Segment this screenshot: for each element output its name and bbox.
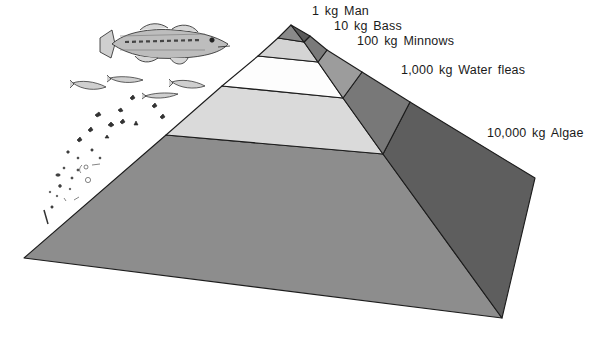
label-man: 1 kg Man [312, 4, 369, 18]
biomass-pyramid-diagram: 1 kg Man 10 kg Bass 100 kg Minnows 1,000… [0, 0, 598, 337]
label-algae: 10,000 kg Algae [487, 126, 584, 140]
bass-fish-illustration [100, 24, 230, 64]
label-bass: 10 kg Bass [334, 19, 402, 33]
pyramid-graphic [0, 0, 598, 337]
water-fleas-illustration [77, 95, 165, 142]
label-minnows: 100 kg Minnows [357, 34, 454, 48]
label-water-fleas: 1,000 kg Water fleas [401, 63, 525, 77]
minnows-illustration [70, 75, 205, 99]
